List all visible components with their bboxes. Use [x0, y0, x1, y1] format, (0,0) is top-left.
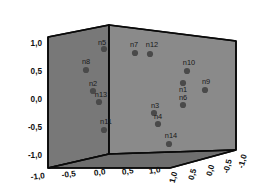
data-point-label: n11 — [100, 117, 112, 126]
data-point-label: n12 — [146, 40, 158, 49]
data-point-label: n8 — [82, 57, 90, 66]
data-point-label: n2 — [89, 79, 97, 88]
data-point[interactable] — [101, 127, 107, 133]
data-point[interactable] — [180, 102, 186, 108]
y-tick-label: -1,0 — [28, 151, 43, 160]
data-point[interactable] — [96, 99, 102, 105]
data-point[interactable] — [202, 87, 208, 93]
data-point-label: n5 — [98, 38, 106, 47]
y-tick-label: -0,5 — [28, 123, 43, 132]
x-tick-label: 0,5 — [121, 166, 134, 176]
data-point-label: n14 — [165, 131, 177, 140]
data-point[interactable] — [147, 51, 153, 57]
z-tick-label: 0,5 — [187, 167, 199, 181]
data-point[interactable] — [166, 141, 172, 147]
x-tick-label: 1,0 — [148, 165, 161, 175]
x-tick-label: -0,5 — [61, 169, 77, 180]
data-point-label: n4 — [154, 112, 162, 121]
y-tick-label: 0,5 — [31, 67, 43, 76]
data-point-label: n10 — [183, 58, 195, 67]
data-point[interactable] — [155, 121, 161, 127]
z-tick-label: -1,0 — [236, 153, 248, 169]
y-tick-label: 0,0 — [31, 95, 43, 104]
x-tick-label: -1,0 — [30, 171, 46, 182]
z-tick-label: 1,0 — [168, 170, 180, 184]
data-point[interactable] — [83, 67, 89, 73]
y-tick-label: 1,0 — [31, 39, 43, 48]
plot-canvas: 1,0 0,5 0,0 -0,5 -1,0 -1,0 -0,5 0,0 0,5 … — [0, 0, 256, 194]
data-point-label: n9 — [202, 77, 210, 86]
data-point-label: n6 — [179, 93, 187, 102]
z-tick-label: 0,0 — [205, 163, 217, 177]
z-tick-label: -0,5 — [221, 158, 233, 174]
scatter3d-figure: 1,0 0,5 0,0 -0,5 -1,0 -1,0 -0,5 0,0 0,5 … — [0, 0, 256, 194]
y-axis-tick-group: 1,0 0,5 0,0 -0,5 -1,0 — [28, 39, 43, 160]
data-point-label: n13 — [95, 90, 107, 99]
data-point-label: n3 — [151, 101, 159, 110]
data-point-label: n7 — [130, 40, 138, 49]
data-point[interactable] — [132, 50, 138, 56]
data-point[interactable] — [184, 68, 190, 74]
x-tick-label: 0,0 — [93, 167, 106, 177]
